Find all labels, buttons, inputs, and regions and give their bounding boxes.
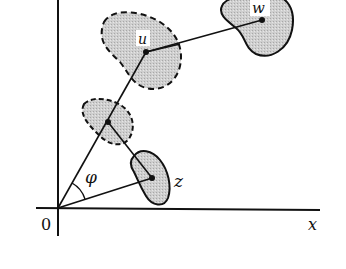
point-z <box>149 175 155 181</box>
complex-plane-diagram: u w z φ 0 x <box>0 0 346 269</box>
point-mid <box>105 119 111 125</box>
label-x-axis: x <box>308 215 317 234</box>
x-axis <box>36 208 320 210</box>
region-u-dashed <box>102 12 181 89</box>
label-origin: 0 <box>41 215 51 234</box>
label-w: w <box>252 0 265 17</box>
point-w <box>259 17 265 23</box>
label-u: u <box>138 31 147 47</box>
label-z: z <box>173 171 184 191</box>
point-u <box>143 49 149 55</box>
label-phi: φ <box>85 167 97 187</box>
angle-arc-phi <box>72 183 85 199</box>
